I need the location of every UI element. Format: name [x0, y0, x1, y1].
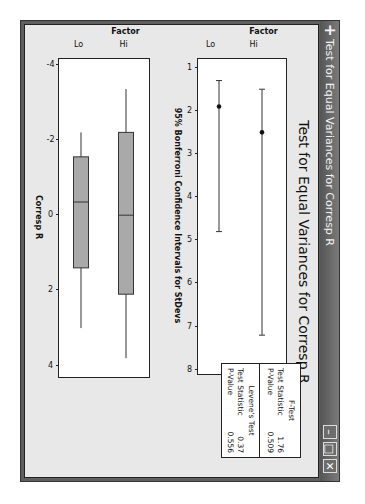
ftest-stat-label: Test Statistic [276, 368, 285, 416]
bottom-cat-hi: Hi [119, 40, 127, 49]
top-x-axis-label: 95% Bonferroni Confidence Intervals for … [173, 58, 182, 373]
bottom-cat-lo: Lo [74, 40, 83, 49]
graph-area: Test for Equal Variances for Corresp R F… [24, 24, 319, 478]
x-tick-label: 2 [46, 285, 56, 294]
boxplot [58, 58, 150, 378]
ftest-stat-row: Test Statistic 1.76 [276, 368, 285, 453]
boxplot-svg [59, 59, 149, 377]
x-tick [56, 139, 59, 140]
levene-stat-row: Test Statistic 0.37 [236, 368, 245, 453]
levene-stat-label: Test Statistic [236, 368, 245, 416]
levene-stat-value: 0.37 [236, 436, 245, 453]
x-tick [56, 64, 59, 65]
bottom-factor-label: Factor [111, 27, 139, 36]
x-tick-label: -4 [46, 59, 56, 68]
x-tick-label: -2 [46, 134, 56, 143]
x-tick [195, 282, 198, 283]
maximize-button[interactable]: □ [323, 442, 337, 456]
x-tick [195, 369, 198, 370]
x-tick [195, 239, 198, 240]
x-tick-label: 4 [185, 192, 195, 201]
x-tick-label: 8 [185, 364, 195, 373]
x-tick-label: 4 [46, 360, 56, 369]
interval-plot-svg [198, 59, 286, 374]
x-tick-label: 6 [185, 278, 195, 287]
interval-plot [197, 58, 287, 375]
legend-divider [259, 364, 260, 457]
x-tick-label: 3 [185, 148, 195, 157]
x-tick [195, 110, 198, 111]
x-tick [195, 67, 198, 68]
x-tick-label: 0 [46, 210, 56, 219]
x-tick-label: 1 [185, 62, 195, 71]
minimize-button[interactable]: – [323, 425, 337, 439]
x-tick-label: 7 [185, 321, 195, 330]
window-title: Test for Equal Variances for Corresp R [323, 39, 336, 246]
ftest-title: F-Test [287, 364, 296, 457]
ftest-p-value: 0.509 [266, 432, 275, 453]
x-tick-label: 2 [185, 105, 195, 114]
x-tick [56, 289, 59, 290]
bottom-x-axis-label: Corresp R [34, 58, 43, 376]
ftest-stat-value: 1.76 [276, 436, 285, 453]
levene-p-row: P-Value 0.556 [226, 368, 235, 453]
ftest-p-label: P-Value [266, 368, 275, 395]
window-menu-icon[interactable]: + [321, 24, 339, 37]
top-factor-label: Factor [249, 27, 277, 36]
top-cat-hi: Hi [249, 40, 257, 49]
levene-title: Levene's Test [247, 364, 256, 457]
ftest-p-row: P-Value 0.509 [266, 368, 275, 453]
x-tick [56, 214, 59, 215]
close-button[interactable]: ✕ [323, 459, 337, 473]
top-cat-lo: Lo [206, 40, 215, 49]
x-tick [56, 365, 59, 366]
title-bar[interactable]: + Test for Equal Variances for Corresp R… [320, 21, 339, 481]
levene-p-value: 0.556 [226, 432, 235, 453]
x-tick-label: 5 [185, 235, 195, 244]
x-tick [195, 196, 198, 197]
test-results-legend: F-Test Test Statistic 1.76 P-Value 0.509… [221, 363, 301, 458]
equal-variances-window: + Test for Equal Variances for Corresp R… [20, 20, 340, 482]
x-tick [195, 326, 198, 327]
x-tick [195, 153, 198, 154]
levene-p-label: P-Value [226, 368, 235, 395]
